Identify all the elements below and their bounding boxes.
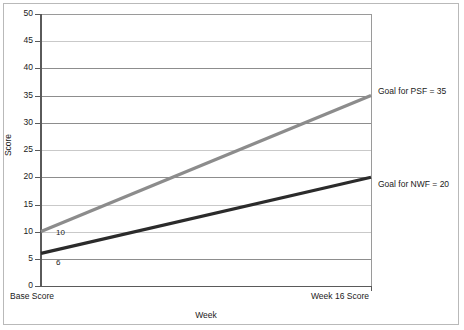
psf-line xyxy=(41,96,371,232)
chart-plot-area: 50 45 40 35 30 25 20 15 10 5 0 Score Wee… xyxy=(0,0,464,330)
nwf-start-value-label: 6 xyxy=(56,258,60,267)
nwf-line xyxy=(41,177,371,253)
psf-goal-annotation: Goal for PSF = 35 xyxy=(378,86,446,96)
nwf-goal-annotation: Goal for NWF = 20 xyxy=(378,179,449,189)
psf-start-value-label: 10 xyxy=(56,228,65,237)
series-lines xyxy=(0,0,464,330)
